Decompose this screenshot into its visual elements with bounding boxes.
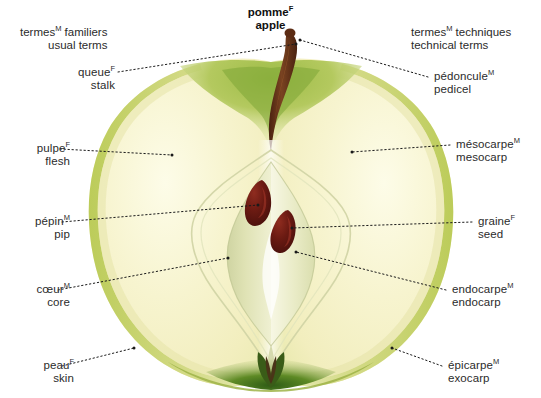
header-left-french: termesM familiers [20, 22, 107, 39]
header-usual-terms: termesM familiers usual terms [20, 22, 107, 53]
leader-dot-pedicel [299, 39, 302, 42]
callout-pedoncule-pedicel: pédonculeMpedicel [434, 66, 494, 97]
callout-french-text: queue [78, 66, 110, 78]
callout-french: pépinM [0, 211, 70, 228]
callout-french: peauF [0, 355, 74, 372]
callout-french: endocarpeM [452, 279, 514, 296]
header-right-english: technical terms [411, 39, 511, 53]
gender-marker: F [511, 213, 516, 222]
header-left-english: usual terms [20, 39, 107, 53]
callout-french: cœurM [0, 279, 70, 296]
callout-french-text: mésocarpe [456, 138, 514, 150]
callout-queue-stalk: queueFstalk [0, 62, 115, 93]
callout-english: stalk [0, 79, 115, 93]
leader-dot-exocarp [391, 347, 394, 350]
callout-english: seed [478, 228, 515, 242]
header-technical-terms: termesM techniques technical terms [411, 22, 511, 53]
callout-epicarpe-exocarp: épicarpeMexocarp [448, 355, 499, 386]
leader-epicarpe-exocarp [392, 348, 442, 366]
apple-cross-section-illustration [0, 0, 541, 398]
callout-french: graineF [478, 211, 515, 228]
gender-marker: F [69, 357, 74, 366]
callout-english: endocarp [452, 296, 514, 310]
callout-french-text: endocarpe [452, 283, 507, 295]
callout-english: mesocarp [456, 151, 520, 165]
callout-english: exocarp [448, 372, 499, 386]
leader-dot-core [227, 257, 230, 260]
gender-marker: F [289, 4, 294, 13]
callout-pulpe-flesh: pulpeFflesh [0, 138, 70, 169]
leader-dot-mesocarp [351, 151, 354, 154]
gender-marker: F [110, 64, 115, 73]
header-right-french: termesM techniques [411, 22, 511, 39]
callout-french: épicarpeM [448, 355, 499, 372]
callout-french-text: pulpe [37, 142, 66, 154]
leader-dot-stalk [295, 43, 298, 46]
callout-endocarpe-endocarp: endocarpeMendocarp [452, 279, 514, 310]
leader-dot-skin [133, 347, 136, 350]
callout-french-text: graine [478, 215, 511, 227]
gender-marker: M [507, 281, 513, 290]
callout-french: queueF [0, 62, 115, 79]
callout-french-text: cœur [37, 283, 64, 295]
gender-marker: M [64, 281, 70, 290]
callout-graine-seed: graineFseed [478, 211, 515, 242]
gender-marker: M [514, 136, 520, 145]
callout-peau-skin: peauFskin [0, 355, 74, 386]
callout-french-text: pédoncule [434, 70, 488, 82]
diagram-canvas: pommeF apple termesM familiers usual ter… [0, 0, 541, 398]
leader-dot-endocarp [295, 251, 298, 254]
callout-french-text: épicarpe [448, 359, 493, 371]
callout-english: flesh [0, 155, 70, 169]
callout-english: core [0, 296, 70, 310]
callout-english: pip [0, 228, 70, 242]
gender-marker: F [65, 140, 70, 149]
leader-dot-seed [291, 227, 294, 230]
top-notch-background [176, 40, 366, 64]
callout-english: pedicel [434, 83, 494, 97]
gender-marker: M [488, 68, 494, 77]
apple-body [89, 29, 454, 393]
callout-pepin-pip: pépinMpip [0, 211, 70, 242]
gender-marker: M [493, 357, 499, 366]
callout-french: pédonculeM [434, 66, 494, 83]
callout-coeur-core: cœurMcore [0, 279, 70, 310]
title-french: pommeF [0, 2, 541, 19]
callout-french: mésocarpeM [456, 134, 520, 151]
callout-french-text: pépin [35, 215, 64, 227]
leader-dot-pip [257, 204, 260, 207]
leader-dot-flesh [171, 154, 174, 157]
callout-english: skin [0, 372, 74, 386]
callout-french-text: peau [43, 359, 69, 371]
callout-french: pulpeF [0, 138, 70, 155]
callout-mesocarpe-mesocarp: mésocarpeMmesocarp [456, 134, 520, 165]
gender-marker: M [64, 213, 70, 222]
